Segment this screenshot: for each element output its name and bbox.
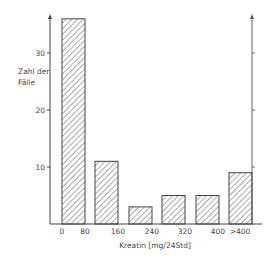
x-tick-label: 0 [60, 227, 65, 236]
x-tick-label: 240 [145, 227, 160, 236]
x-tick-label: >400 [230, 227, 251, 236]
bar-160-240 [129, 207, 152, 224]
bar-0-80 [62, 19, 85, 224]
x-tick-label: 160 [111, 227, 126, 236]
bars [62, 19, 252, 224]
y-tick-label: 30 [35, 49, 45, 58]
bar-240-320 [162, 196, 185, 225]
histogram-chart: 102030Zahl derFälle080160240320400>400Kr… [0, 0, 277, 262]
x-tick-label: 400 [211, 227, 226, 236]
bar-80-160 [95, 161, 118, 224]
x-tick-label: 320 [178, 227, 193, 236]
y-tick-label: 10 [35, 163, 45, 172]
right-axis-arrow-icon [250, 14, 254, 19]
y-axis-arrow-icon [48, 14, 52, 19]
y-axis-label: Fälle [18, 78, 35, 87]
bar-320-400 [196, 196, 219, 225]
y-axis-label: Zahl der [18, 67, 50, 76]
bar->400 [229, 173, 252, 224]
x-axis-label: Kreatin [mg/24Std] [119, 241, 191, 250]
y-tick-label: 20 [35, 106, 45, 115]
x-tick-label: 80 [80, 227, 90, 236]
